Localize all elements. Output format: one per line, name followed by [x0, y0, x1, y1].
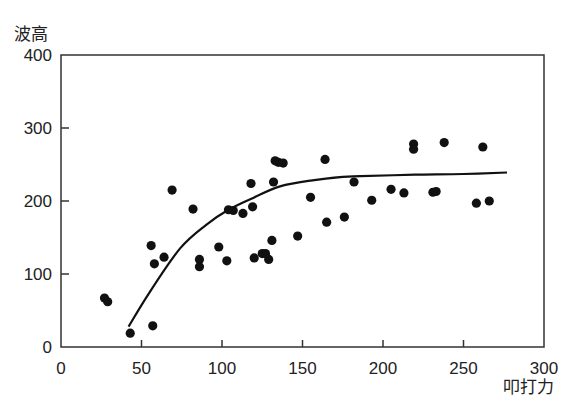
data-point — [238, 209, 247, 218]
data-point — [150, 259, 159, 268]
data-point — [409, 145, 418, 154]
data-point — [320, 155, 329, 164]
y-tick-label: 0 — [43, 338, 52, 357]
y-axis-title: 波高 — [14, 24, 48, 44]
data-point — [103, 297, 112, 306]
data-point — [478, 142, 487, 151]
data-point — [222, 256, 231, 265]
data-point — [340, 212, 349, 221]
scatter-chart: 050100150200250300 0100200300400 波高 叩打力 — [0, 0, 569, 406]
data-point — [399, 188, 408, 197]
data-point — [386, 185, 395, 194]
data-point — [248, 202, 257, 211]
data-point — [126, 329, 135, 338]
x-tick-label: 0 — [56, 359, 65, 378]
data-point — [322, 218, 331, 227]
data-point — [349, 177, 358, 186]
y-tick-label: 400 — [24, 46, 52, 65]
data-point — [279, 158, 288, 167]
data-point — [440, 138, 449, 147]
y-tick-label: 300 — [24, 119, 52, 138]
x-tick-label: 150 — [288, 359, 316, 378]
x-axis-ticks — [142, 340, 464, 347]
data-point — [147, 241, 156, 250]
y-axis-tick-labels: 0100200300400 — [24, 46, 52, 357]
data-point — [188, 204, 197, 213]
x-tick-label: 300 — [530, 359, 558, 378]
data-point — [264, 255, 273, 264]
y-tick-label: 200 — [24, 192, 52, 211]
data-point — [367, 196, 376, 205]
data-point — [267, 236, 276, 245]
data-point — [246, 179, 255, 188]
data-point — [159, 253, 168, 262]
data-point — [293, 231, 302, 240]
x-tick-label: 50 — [132, 359, 151, 378]
data-point — [229, 206, 238, 215]
data-point — [214, 242, 223, 251]
data-point — [250, 253, 259, 262]
x-tick-label: 200 — [369, 359, 397, 378]
x-tick-label: 250 — [449, 359, 477, 378]
data-point — [195, 262, 204, 271]
data-point — [472, 199, 481, 208]
data-point — [269, 177, 278, 186]
fitted-curve — [129, 173, 507, 327]
y-axis-ticks — [61, 128, 69, 274]
x-tick-label: 100 — [208, 359, 236, 378]
data-point — [432, 187, 441, 196]
data-point — [306, 193, 315, 202]
data-point — [167, 185, 176, 194]
y-tick-label: 100 — [24, 265, 52, 284]
x-axis-title: 叩打力 — [503, 377, 554, 397]
data-point — [485, 196, 494, 205]
plot-frame — [61, 55, 544, 347]
data-point — [148, 321, 157, 330]
x-axis-tick-labels: 050100150200250300 — [56, 359, 558, 378]
data-points — [100, 138, 494, 338]
